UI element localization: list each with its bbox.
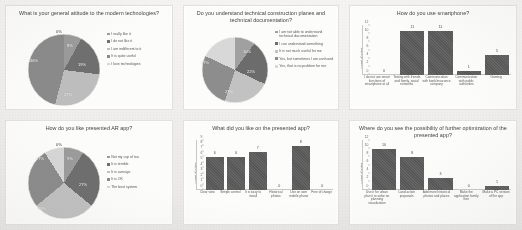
y-axis-tick-mark: [202, 183, 204, 184]
bar-value-label: 6: [214, 152, 216, 156]
legend-label: Yes, that is no problem for me: [279, 64, 326, 68]
legend-item: I really like it: [107, 32, 169, 36]
legend-swatch: [107, 48, 110, 51]
bar-value-label: 8: [411, 152, 413, 156]
bar-plot-area: 108301 024681012: [370, 141, 511, 190]
bar-column: 0: [370, 26, 398, 75]
bar-column: 8: [290, 141, 312, 190]
y-axis-tick-mark: [202, 156, 204, 157]
chart-title: What is your general attitude to the mod…: [12, 10, 166, 17]
bar: [227, 157, 245, 190]
pie-slice-label: 27%: [64, 93, 72, 97]
legend-label: It is terrible: [111, 162, 128, 166]
chart-cell-documentation: Do you understand technical construction…: [178, 0, 344, 115]
legend-swatch: [107, 178, 110, 181]
legend-item: It is quite useful: [107, 54, 169, 58]
legend-swatch: [107, 55, 110, 58]
x-axis-tick-label: Communication with bank/insurance compan…: [422, 76, 452, 107]
bar-plot-area: 0111115 024681012: [370, 26, 511, 75]
legend-swatch: [107, 171, 110, 174]
bar: [428, 178, 452, 190]
y-axis: [362, 140, 363, 190]
bar-value-label: 6: [235, 152, 237, 156]
legend-item: I do not like it: [107, 39, 169, 43]
x-axis-tick-label: Gaming: [481, 76, 511, 107]
bar-column: 10: [370, 141, 398, 190]
pie-slice-label: 22%: [247, 70, 255, 74]
chart-legend: I really like it I do not like it I am i…: [107, 32, 169, 69]
legend-label: I really like it: [111, 32, 131, 36]
bar-series: 0111115: [370, 26, 511, 75]
pie-plot-area: 10% 22% 23% 27% 18%: [187, 26, 283, 114]
y-axis-tick-mark: [368, 148, 370, 149]
bar-column: 1: [483, 141, 511, 190]
bar: [206, 157, 224, 190]
x-axis-tick-label: I do not use smart functions of smartpho…: [362, 76, 392, 107]
y-axis-tick-mark: [368, 49, 370, 50]
y-axis-tick-mark: [202, 172, 204, 173]
legend-item: I am not able to understand technical do…: [275, 30, 335, 38]
legend-swatch: [107, 63, 110, 66]
legend-swatch: [107, 186, 110, 189]
pie-slice-label: 46%: [30, 59, 38, 63]
bar-column: 0: [269, 141, 291, 190]
pie-slice-label: 27%: [36, 157, 44, 161]
legend-label: I can understand something: [279, 42, 323, 46]
chart-title: How do you like presented AR app?: [12, 125, 166, 132]
x-axis-tick-label: Texting with friends and family, social …: [392, 76, 422, 107]
bar: [400, 157, 424, 190]
bar-value-label: 1: [496, 181, 498, 185]
legend-label: I am indifferent to it: [111, 47, 141, 51]
pie-plot-area: 0% 8% 19% 27% 46%: [12, 26, 116, 114]
chart-cell-optimization: Where do you see the possibility of furt…: [344, 115, 522, 230]
y-axis-tick-mark: [368, 156, 370, 157]
bar-value-label: 3: [440, 173, 442, 177]
legend-swatch: [107, 40, 110, 43]
legend-swatch: [107, 33, 110, 36]
legend-item: Yes, that is no problem for me: [275, 64, 335, 68]
legend-label: It is OK: [111, 177, 123, 181]
legend-label: I am not able to understand technical do…: [279, 30, 335, 38]
bar-value-label: 11: [410, 26, 414, 30]
x-axis-tick-label: Free of charge: [310, 191, 333, 222]
legend-label: It is quite useful: [111, 54, 136, 58]
legend-swatch: [107, 163, 110, 166]
x-axis-tick-label: Land action proposals: [392, 191, 422, 222]
bar-column: 5: [483, 26, 511, 75]
y-axis-tick-mark: [368, 180, 370, 181]
bar: [485, 55, 509, 75]
x-axis-tick-label: Simple control: [219, 191, 242, 222]
bar-column: 11: [398, 26, 426, 75]
x-axis-tick-label: Make a PC version of the app: [481, 191, 511, 222]
chart-panel: How do you use smartphone? count of vote…: [349, 5, 517, 110]
bar-series: 108301: [370, 141, 511, 190]
y-axis-tick-mark: [202, 178, 204, 179]
x-axis-tick-label: Use it for urban plan it to solve on pla…: [362, 191, 392, 222]
legend-swatch: [107, 156, 110, 159]
x-axis-tick-label: It is easy to install: [242, 191, 265, 222]
bar-value-label: 11: [439, 26, 443, 30]
pie-slice-label: 19%: [78, 63, 86, 67]
legend-label: Not my cup of tea: [111, 155, 139, 159]
y-axis-tick-mark: [368, 172, 370, 173]
x-axis-tick-label: Use on own mobile phone: [287, 191, 310, 222]
y-axis-tick-mark: [368, 65, 370, 66]
x-axis-tick-label: Add more historical photos and places: [422, 191, 452, 222]
legend-item: I love technologies: [107, 62, 169, 66]
legend-label: Yes, but sometimes I am confused: [279, 57, 333, 61]
legend-swatch: [275, 65, 278, 68]
legend-swatch: [275, 42, 278, 45]
pie-plot-area: 0% 9% 27% 28% 27%: [12, 137, 116, 229]
x-axis-tick-label: Communication with public authorities: [451, 76, 481, 107]
pie-slice-label: 0%: [56, 143, 62, 147]
bar-value-label: 7: [257, 147, 259, 151]
pie-chart: [202, 37, 268, 103]
bar-series: 667080: [204, 141, 333, 190]
bar: [372, 149, 396, 190]
chart-panel: Do you understand technical construction…: [183, 5, 339, 110]
y-axis-tick-mark: [368, 41, 370, 42]
bar-column: 1: [455, 26, 483, 75]
y-axis-tick-mark: [368, 140, 370, 141]
legend-item: The best system: [107, 185, 169, 189]
chart-title: Do you understand technical construction…: [190, 10, 332, 23]
